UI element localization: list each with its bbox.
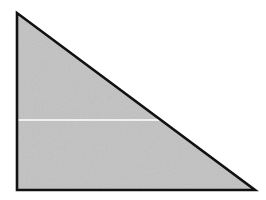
diagram-canvas (0, 0, 266, 200)
triangle-diagram (0, 0, 266, 200)
